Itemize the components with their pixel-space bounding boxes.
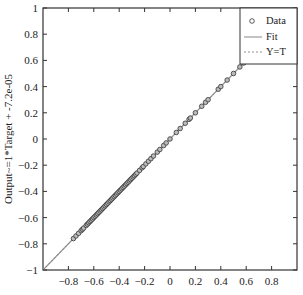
svg-text:0.6: 0.6 (24, 54, 38, 66)
svg-text:Fit: Fit (266, 31, 278, 42)
svg-text:1: 1 (33, 2, 39, 14)
svg-text:0: 0 (33, 133, 39, 145)
svg-text:−0.2: −0.2 (18, 159, 38, 171)
figure-caption (40, 285, 303, 295)
svg-text:−0.8: −0.8 (18, 238, 38, 250)
regression-plot: −0.8−0.6−0.4−0.200.20.40.60.8 10.80.60.4… (0, 0, 303, 295)
svg-text:0.2: 0.2 (24, 107, 38, 119)
svg-text:0.8: 0.8 (24, 28, 38, 40)
svg-text:−0.4: −0.4 (18, 185, 38, 197)
svg-text:0.4: 0.4 (24, 81, 38, 93)
svg-text:Data: Data (266, 15, 286, 26)
svg-text:Y=T: Y=T (266, 46, 287, 57)
svg-text:−1: −1 (26, 264, 38, 276)
y-axis-label: Output~=1*Target + -7.2e-05 (2, 73, 14, 204)
legend: DataFitY=T (240, 8, 297, 64)
svg-text:−0.6: −0.6 (18, 212, 38, 224)
